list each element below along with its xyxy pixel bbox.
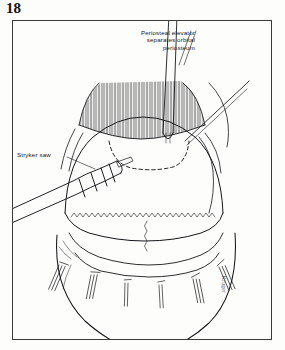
- label-line-3: periosteum: [163, 44, 195, 51]
- label-line-2: separates orbital: [147, 36, 195, 43]
- retractor-hooks: [44, 260, 239, 308]
- scalp-flap-hatching: [79, 73, 205, 141]
- artist-signature: Kruger: [221, 276, 227, 293]
- zigzag-suture-line: [71, 213, 215, 251]
- figure-number: 18: [6, 1, 21, 16]
- label-stryker-saw: Stryker saw: [17, 151, 51, 158]
- orbital-rim-left: [61, 129, 83, 171]
- temporal-tissue: [199, 83, 229, 213]
- figure-frame: Periosteal elevatorseparates orbitalperi…: [12, 20, 272, 340]
- label-periosteal-elevator: Periosteal elevatorseparates orbitalperi…: [141, 29, 195, 51]
- figure-page: 18: [0, 0, 285, 350]
- label-line-1: Periosteal elevator: [141, 29, 195, 36]
- surgical-illustration: [13, 21, 272, 340]
